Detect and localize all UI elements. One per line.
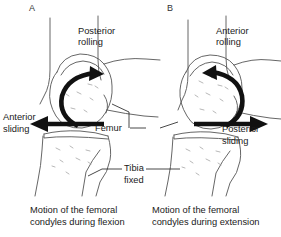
label-posterior-rolling-line1: Posterior <box>78 26 115 37</box>
label-posterior-rolling-line2: rolling <box>78 37 103 48</box>
label-anterior-rolling-line1: Anterior <box>216 26 249 37</box>
label-anterior-rolling-line2: rolling <box>216 37 241 48</box>
panel-letter-a: A <box>29 3 35 13</box>
caption-a-line1: Motion of the femoral <box>30 205 117 216</box>
panel-b-arrows <box>194 65 268 132</box>
panel-letter-b: B <box>167 3 173 13</box>
caption-b-line1: Motion of the femoral <box>152 205 239 216</box>
label-tibia: Tibia <box>124 163 144 174</box>
label-posterior-sliding-line2: sliding <box>222 136 248 147</box>
label-posterior-sliding-line1: Posterior <box>222 124 259 135</box>
caption-b-line2: condyles during extension <box>152 217 260 228</box>
label-anterior-sliding-line1: Anterior <box>3 112 36 123</box>
label-femur: Femur <box>95 123 122 134</box>
label-anterior-sliding-line2: sliding <box>3 124 29 135</box>
label-tibia-fixed: fixed <box>124 175 144 186</box>
knee-kinematics-figure: A B Posterior rolling Anterior sliding F… <box>0 0 281 237</box>
caption-a-line2: condyles during flexion <box>30 217 125 228</box>
